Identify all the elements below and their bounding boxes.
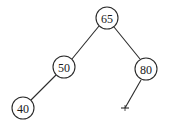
node-label-50: 50: [58, 61, 70, 75]
null-leaf-marker: [121, 105, 129, 111]
node-40: 40: [12, 97, 34, 119]
edges: [31, 26, 141, 111]
edge-65-50: [72, 26, 99, 59]
edge-50-40: [31, 75, 56, 100]
node-50: 50: [53, 56, 75, 78]
node-65: 65: [96, 7, 118, 29]
node-label-65: 65: [101, 12, 113, 26]
node-80: 80: [135, 58, 157, 80]
edge-65-80: [114, 27, 140, 59]
node-label-40: 40: [17, 102, 29, 116]
binary-tree-diagram: 65 50 80 40: [0, 0, 172, 129]
node-label-80: 80: [140, 63, 152, 77]
edge-80-null: [125, 80, 141, 108]
